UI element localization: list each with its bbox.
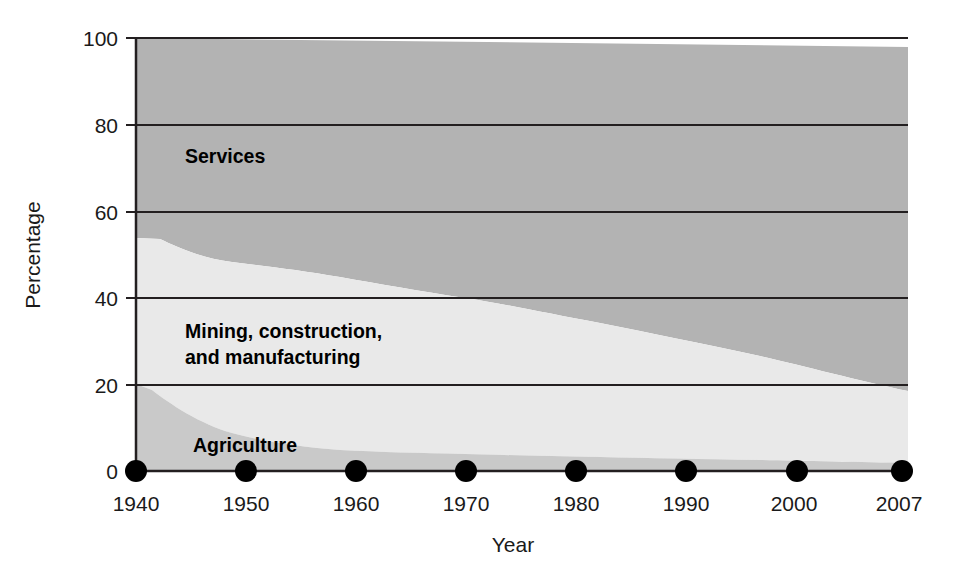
xtick-label-1980: 1980 (553, 492, 600, 515)
series-label-services: Services (185, 145, 265, 167)
ytick-label-100: 100 (83, 27, 118, 50)
xtick-label-1950: 1950 (223, 492, 270, 515)
marker-point-1980[interactable] (565, 460, 587, 482)
xtick-label-2000: 2000 (771, 492, 818, 515)
marker-point-1970[interactable] (455, 460, 477, 482)
marker-point-2000[interactable] (786, 460, 808, 482)
ytick-label-40: 40 (95, 287, 118, 310)
ytick-label-60: 60 (95, 201, 118, 224)
ytick-label-80: 80 (95, 114, 118, 137)
ytick-label-0: 0 (106, 460, 118, 483)
y-axis-title: Percentage (21, 201, 44, 308)
series-label-mining-line1: Mining, construction, (185, 320, 382, 342)
xtick-label-1990: 1990 (663, 492, 710, 515)
marker-point-1940[interactable] (125, 460, 147, 482)
series-label-agriculture: Agriculture (193, 434, 297, 456)
xtick-label-1960: 1960 (333, 492, 380, 515)
marker-point-1990[interactable] (675, 460, 697, 482)
x-axis-title: Year (492, 533, 534, 556)
xtick-label-1940: 1940 (113, 492, 160, 515)
series-label-mining-line2: and manufacturing (185, 346, 361, 368)
marker-point-2007[interactable] (891, 460, 913, 482)
chart-container: 100 80 60 40 20 0 Percentage 1940 1950 1… (0, 0, 968, 572)
xtick-label-1970: 1970 (443, 492, 490, 515)
ytick-label-20: 20 (95, 374, 118, 397)
marker-point-1960[interactable] (345, 460, 367, 482)
marker-point-1950[interactable] (235, 460, 257, 482)
xtick-label-2007: 2007 (876, 492, 923, 515)
stacked-area-chart: 100 80 60 40 20 0 Percentage 1940 1950 1… (0, 0, 968, 572)
